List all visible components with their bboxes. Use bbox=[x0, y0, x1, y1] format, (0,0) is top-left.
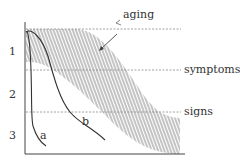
y-label-3: 3 bbox=[9, 129, 16, 142]
curve-a-label: a bbox=[40, 129, 47, 142]
aging-band bbox=[26, 29, 181, 155]
aging-squiggle-icon bbox=[116, 20, 121, 25]
y-label-2: 2 bbox=[9, 88, 16, 101]
curve-b-label: b bbox=[82, 115, 89, 128]
symptoms-label: symptoms bbox=[184, 63, 240, 76]
signs-label: signs bbox=[184, 105, 213, 118]
aging-label: aging bbox=[123, 8, 154, 21]
aging-diagram: aging symptoms signs 1 2 3 a b bbox=[0, 0, 240, 163]
y-label-1: 1 bbox=[9, 45, 16, 58]
